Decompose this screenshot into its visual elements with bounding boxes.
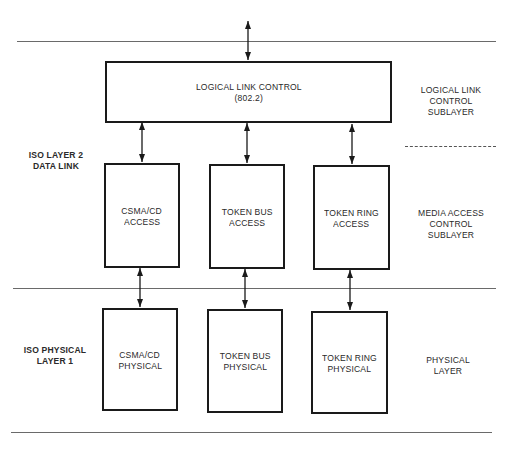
token-ring-access-box: TOKEN RING ACCESS [313,165,390,270]
iso-layer2-label-line1: ISO LAYER 2 [25,149,86,160]
token-bus-access-box: TOKEN BUS ACCESS [209,164,285,269]
physical-layer-label-line1: PHYSICAL [421,354,475,365]
csmacd-access-line2: ACCESS [124,216,160,227]
mac-sublayer-label: MEDIA ACCESS CONTROL SUBLAYER [409,207,494,240]
token-ring-access-line1: TOKEN RING [324,207,379,218]
logical-link-control-box: LOGICAL LINK CONTROL (802.2) [105,61,392,123]
token-bus-physical-box: TOKEN BUS PHYSICAL [207,309,283,413]
csmacd-access-line1: CSMA/CD [122,205,163,216]
csmacd-access-box: CSMA/CD ACCESS [104,163,180,268]
iso-physical-layer1-label: ISO PHYSICAL LAYER 1 [24,344,87,366]
csmacd-physical-box: CSMA/CD PHYSICAL [102,308,178,411]
iso-physical-layer1-label-line2: LAYER 1 [24,355,87,366]
token-bus-physical-line2: PHYSICAL [223,361,267,372]
llc-box-standard: (802.2) [234,92,262,103]
token-ring-access-line2: ACCESS [333,218,369,229]
iso-physical-layer1-label-line1: ISO PHYSICAL [24,344,87,355]
physical-layer-label: PHYSICAL LAYER [421,354,475,376]
csmacd-physical-line1: CSMA/CD [120,349,161,360]
token-ring-physical-box: TOKEN RING PHYSICAL [311,311,388,414]
token-bus-access-line2: ACCESS [229,217,265,228]
iso-layer2-label: ISO LAYER 2 DATA LINK [25,149,86,171]
llc-box-title: LOGICAL LINK CONTROL [196,81,302,92]
mac-sublayer-label-line2: CONTROL SUBLAYER [409,218,494,240]
token-ring-physical-line2: PHYSICAL [328,363,372,374]
token-ring-physical-line1: TOKEN RING [322,352,377,363]
iso-layer2-label-line2: DATA LINK [25,160,86,171]
csmacd-physical-line2: PHYSICAL [118,360,162,371]
llc-sublayer-label-line1: LOGICAL LINK [409,84,494,95]
token-bus-physical-line1: TOKEN BUS [220,350,271,361]
mac-sublayer-label-line1: MEDIA ACCESS [409,207,494,218]
llc-sublayer-label-line2: CONTROL SUBLAYER [409,95,494,117]
llc-sublayer-label: LOGICAL LINK CONTROL SUBLAYER [409,84,494,117]
physical-layer-label-line2: LAYER [421,365,475,376]
token-bus-access-line1: TOKEN BUS [222,206,273,217]
